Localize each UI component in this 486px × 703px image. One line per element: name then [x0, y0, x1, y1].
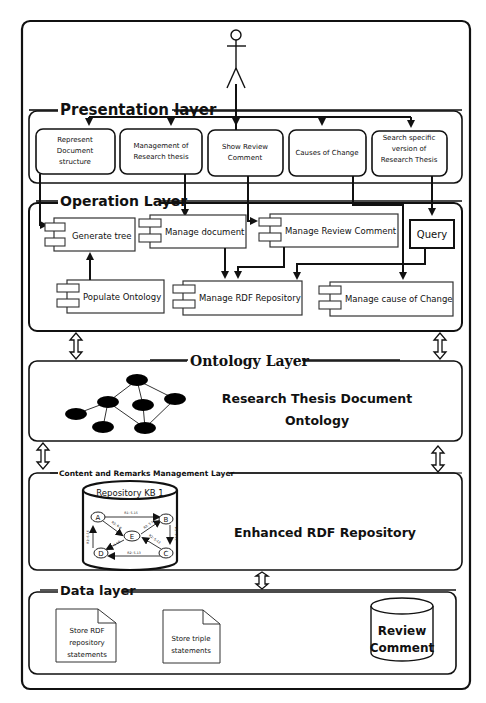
svg-text:Manage RDF Repository: Manage RDF Repository	[199, 293, 301, 303]
svg-text:E: E	[130, 533, 134, 541]
svg-text:R2: 6-16: R2: 6-16	[86, 530, 90, 544]
architecture-diagram: Presentation layer RepresentDocumentstru…	[0, 0, 486, 703]
component-manage-rdf-repository: Manage RDF Repository	[173, 281, 302, 315]
svg-text:R2: 5-13: R2: 5-13	[127, 551, 141, 555]
svg-text:Causes of Change: Causes of Change	[295, 149, 358, 157]
svg-text:B: B	[164, 516, 169, 524]
component-manage-cause-of-change: Manage cause of Change	[319, 282, 453, 316]
ontology-graph-icon	[65, 374, 186, 434]
document-store-triple-statements: Store triplestatements	[163, 610, 220, 663]
svg-text:D: D	[98, 550, 103, 558]
svg-text:Store RDFrepositorystatements: Store RDFrepositorystatements	[67, 627, 107, 659]
svg-text:Manage document: Manage document	[165, 227, 245, 237]
content-layer-title: Content and Remarks Management Layer	[59, 469, 234, 478]
component-populate-ontology: Populate Ontology	[57, 280, 164, 313]
svg-text:R2: 9-11: R2: 9-11	[174, 527, 178, 541]
presentation-box-causes-of-change: Causes of Change	[289, 130, 366, 176]
svg-text:Repository KB 1: Repository KB 1	[96, 488, 163, 498]
data-layer-title: Data layer	[60, 583, 136, 598]
operation-layer-title: Operation Layer	[60, 193, 187, 209]
component-manage-review-comment: Manage Review Comment	[259, 214, 398, 247]
svg-text:Manage Review Comment: Manage Review Comment	[285, 226, 397, 236]
presentation-box-show-review-comment: Show ReviewComment	[208, 130, 283, 176]
svg-text:RepresentDocumentstructure: RepresentDocumentstructure	[57, 136, 94, 166]
bidirectional-arrow-icon	[256, 572, 268, 589]
component-generate-tree: Generate tree	[45, 218, 135, 251]
presentation-box-search-version: Search specificversion ofResearch Thesis	[372, 131, 447, 176]
ontology-description: Research Thesis DocumentOntology	[222, 391, 412, 428]
svg-text:Populate Ontology: Populate Ontology	[83, 292, 161, 302]
database-review-comment: ReviewComment	[370, 598, 435, 661]
ontology-layer-title: Ontology Layer	[190, 353, 310, 369]
content-layer-description: Enhanced RDF Repository	[234, 525, 416, 540]
actor-icon	[227, 30, 246, 88]
svg-text:C: C	[164, 550, 169, 558]
svg-text:A: A	[96, 514, 101, 522]
repository-kb-cylinder: Repository KB 1 A B C D E R1: 5-1	[83, 481, 178, 570]
component-query: Query	[410, 220, 454, 248]
svg-text:Manage cause of Change: Manage cause of Change	[345, 294, 453, 304]
svg-text:R1: 5-15: R1: 5-15	[124, 511, 138, 515]
presentation-box-management-thesis: Management ofResearch thesis	[120, 129, 202, 174]
svg-text:Query: Query	[417, 229, 447, 240]
presentation-box-represent-document: RepresentDocumentstructure	[36, 129, 115, 174]
component-manage-document: Manage document	[139, 215, 246, 248]
document-store-rdf-statements: Store RDFrepositorystatements	[56, 609, 116, 662]
svg-text:Generate tree: Generate tree	[72, 231, 132, 241]
